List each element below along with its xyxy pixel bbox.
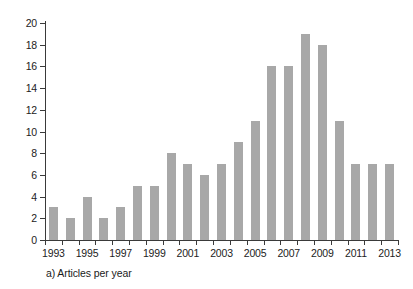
x-axis-tick-label: 2009 bbox=[311, 247, 334, 259]
bar bbox=[284, 66, 293, 240]
x-axis-tick bbox=[280, 241, 281, 245]
y-axis-tick-label: 12 bbox=[10, 105, 37, 115]
y-axis-tick-label: 8 bbox=[10, 148, 37, 158]
x-axis-tick bbox=[196, 241, 197, 245]
y-axis-tick-label: 10 bbox=[10, 127, 37, 137]
bar-slot bbox=[364, 23, 381, 240]
y-axis-tick-label-text: 14 bbox=[10, 83, 37, 93]
bar-slot bbox=[213, 23, 230, 240]
x-axis-tick bbox=[79, 241, 80, 245]
bar-slot bbox=[280, 23, 297, 240]
y-axis-tick-label-text: 20 bbox=[10, 18, 37, 28]
bar-chart-figure: 02468101214161820 1993199519971999200120… bbox=[0, 0, 413, 289]
x-axis-tick bbox=[213, 241, 214, 245]
bar-slot bbox=[264, 23, 281, 240]
bar bbox=[301, 34, 310, 240]
bar bbox=[116, 207, 125, 240]
bar-slot bbox=[79, 23, 96, 240]
y-axis-tick-label-text: 16 bbox=[10, 61, 37, 71]
bar-slot bbox=[179, 23, 196, 240]
bar bbox=[183, 164, 192, 240]
bar bbox=[217, 164, 226, 240]
bar-slot bbox=[230, 23, 247, 240]
y-axis-tick-label-text: 6 bbox=[10, 170, 37, 180]
x-axis-tick-label: 2007 bbox=[277, 247, 300, 259]
y-axis-tick-label-text: 12 bbox=[10, 105, 37, 115]
x-axis-tick bbox=[179, 241, 180, 245]
bar bbox=[267, 66, 276, 240]
bar-slot bbox=[95, 23, 112, 240]
bar-slot bbox=[196, 23, 213, 240]
bar-slot bbox=[381, 23, 398, 240]
bar bbox=[335, 121, 344, 240]
x-axis-tick-label: 1999 bbox=[143, 247, 166, 259]
bar-slot bbox=[247, 23, 264, 240]
x-axis-tick bbox=[364, 241, 365, 245]
bar-slot bbox=[146, 23, 163, 240]
bar bbox=[133, 186, 142, 240]
x-axis-tick-label: 2013 bbox=[378, 247, 401, 259]
x-axis-tick-label: 2003 bbox=[210, 247, 233, 259]
y-axis-tick-label-text: 18 bbox=[10, 40, 37, 50]
x-axis-tick bbox=[112, 241, 113, 245]
bar bbox=[385, 164, 394, 240]
bar-slot bbox=[112, 23, 129, 240]
y-axis-tick-label-text: 8 bbox=[10, 148, 37, 158]
x-axis-tick bbox=[62, 241, 63, 245]
x-axis-tick bbox=[398, 241, 399, 245]
bar-slot bbox=[129, 23, 146, 240]
y-axis-tick-label-text: 4 bbox=[10, 192, 37, 202]
x-axis-tick bbox=[45, 241, 46, 245]
y-axis-tick-label: 20 bbox=[10, 18, 37, 28]
bar bbox=[83, 197, 92, 240]
bar-slot bbox=[348, 23, 365, 240]
bar-slot bbox=[297, 23, 314, 240]
x-axis-tick bbox=[247, 241, 248, 245]
y-axis-tick-label: 18 bbox=[10, 40, 37, 50]
y-axis-tick-label: 0 bbox=[10, 235, 37, 245]
bar bbox=[318, 45, 327, 240]
x-axis-tick bbox=[163, 241, 164, 245]
y-axis-tick-label-text: 0 bbox=[10, 235, 37, 245]
bar bbox=[251, 121, 260, 240]
x-axis-tick bbox=[129, 241, 130, 245]
x-axis-line bbox=[45, 240, 399, 241]
bar bbox=[167, 153, 176, 240]
figure-caption: a) Articles per year bbox=[46, 267, 132, 279]
bar bbox=[351, 164, 360, 240]
x-axis-tick bbox=[297, 241, 298, 245]
x-axis-tick bbox=[381, 241, 382, 245]
x-axis-tick-label: 1993 bbox=[42, 247, 65, 259]
x-axis-tick-label: 2011 bbox=[345, 247, 367, 259]
bar-slot bbox=[62, 23, 79, 240]
x-axis-tick-label: 2001 bbox=[177, 247, 200, 259]
plot-area bbox=[45, 23, 398, 240]
y-axis-tick-label: 6 bbox=[10, 170, 37, 180]
x-axis-tick-label: 1997 bbox=[109, 247, 132, 259]
bar bbox=[234, 142, 243, 240]
bar bbox=[150, 186, 159, 240]
bar-slot bbox=[314, 23, 331, 240]
y-axis-tick-label-text: 10 bbox=[10, 127, 37, 137]
y-axis-tick-label: 16 bbox=[10, 61, 37, 71]
y-axis-tick-label-text: 2 bbox=[10, 213, 37, 223]
y-axis-tick-label: 14 bbox=[10, 83, 37, 93]
bar-slot bbox=[163, 23, 180, 240]
bar bbox=[368, 164, 377, 240]
x-axis-tick bbox=[230, 241, 231, 245]
x-axis-tick-label: 1995 bbox=[76, 247, 99, 259]
bar bbox=[66, 218, 75, 240]
bar bbox=[49, 207, 58, 240]
x-axis-tick bbox=[264, 241, 265, 245]
x-axis-tick bbox=[348, 241, 349, 245]
bar bbox=[200, 175, 209, 240]
y-axis-tick-label: 4 bbox=[10, 192, 37, 202]
y-axis-tick-label: 2 bbox=[10, 213, 37, 223]
bar-slot bbox=[331, 23, 348, 240]
bar bbox=[99, 218, 108, 240]
x-axis-tick bbox=[146, 241, 147, 245]
x-axis-tick-label: 2005 bbox=[244, 247, 267, 259]
x-axis-tick bbox=[331, 241, 332, 245]
bar-slot bbox=[45, 23, 62, 240]
x-axis-tick bbox=[95, 241, 96, 245]
